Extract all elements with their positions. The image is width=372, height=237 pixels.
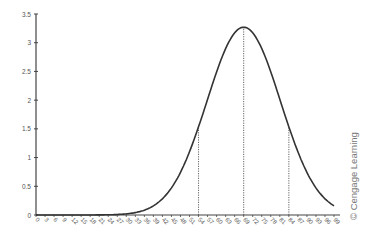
x-tick-label: 24 xyxy=(107,216,116,225)
x-tick-label: 21 xyxy=(98,216,107,225)
x-tick-label: 84 xyxy=(287,216,296,225)
reference-lines xyxy=(199,27,289,215)
x-tick-label: 30 xyxy=(125,216,134,225)
x-tick-label: 0 xyxy=(34,216,41,223)
x-tick-label: 54 xyxy=(197,216,206,225)
x-tick-label: 87 xyxy=(296,216,305,225)
normal-curve xyxy=(36,27,334,215)
x-axis: 0369121518212427303336394245485154576063… xyxy=(34,215,341,226)
x-tick-label: 33 xyxy=(134,216,143,225)
x-tick-label: 3 xyxy=(43,216,50,223)
x-tick-label: 66 xyxy=(233,216,242,225)
x-tick-label: 18 xyxy=(88,216,97,225)
x-tick-label: 36 xyxy=(143,216,152,225)
x-tick-label: 39 xyxy=(152,216,161,225)
x-tick-label: 93 xyxy=(314,216,323,225)
normal-distribution-chart: 00.511.522.533.5 03691215182124273033363… xyxy=(0,0,372,237)
x-tick-label: 75 xyxy=(260,216,269,225)
x-tick-label: 63 xyxy=(224,216,233,225)
x-tick-label: 45 xyxy=(170,216,179,225)
y-tick-label: 1 xyxy=(27,154,31,161)
x-tick-label: 12 xyxy=(70,216,79,225)
y-tick-label: 3 xyxy=(27,39,31,46)
x-tick-label: 90 xyxy=(305,216,314,225)
x-tick-label: 60 xyxy=(215,216,224,225)
x-tick-label: 51 xyxy=(188,216,197,225)
x-tick-label: 15 xyxy=(79,216,88,225)
x-tick-label: 27 xyxy=(116,216,125,225)
x-tick-label: 81 xyxy=(278,216,287,225)
y-tick-label: 3.5 xyxy=(22,11,31,18)
y-axis: 00.511.522.533.5 xyxy=(22,11,38,219)
x-tick-label: 78 xyxy=(269,216,278,225)
x-tick-label: 96 xyxy=(323,216,332,225)
y-tick-label: 0 xyxy=(27,212,31,219)
x-tick-label: 48 xyxy=(179,216,188,225)
x-tick-label: 42 xyxy=(161,216,170,225)
y-tick-label: 1.5 xyxy=(22,125,31,132)
y-tick-label: 2.5 xyxy=(22,68,31,75)
copyright-credit: © Cengage Learning xyxy=(348,132,359,220)
x-tick-label: 72 xyxy=(251,216,260,225)
x-tick-label: 57 xyxy=(206,216,215,225)
x-tick-label: 99 xyxy=(332,216,341,225)
y-tick-label: 0.5 xyxy=(22,183,31,190)
y-tick-label: 2 xyxy=(27,97,31,104)
x-tick-label: 9 xyxy=(61,216,68,223)
x-tick-label: 69 xyxy=(242,216,251,225)
x-tick-label: 6 xyxy=(52,216,59,223)
